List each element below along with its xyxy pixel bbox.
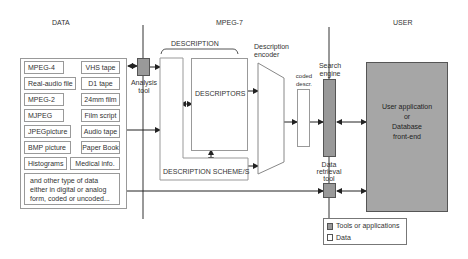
data-item-paper-book: Paper Book <box>81 141 120 154</box>
analysis-tool-label-line2: tool <box>127 87 161 95</box>
coded-descr-line2: descr. <box>291 80 317 88</box>
descriptors-box[interactable] <box>191 58 248 151</box>
description-bracket-label: DESCRIPTION <box>171 40 219 48</box>
section-user-label: USER <box>393 19 412 27</box>
search-engine-line1: Search <box>316 62 344 70</box>
data-item-mpeg2: MPEG-2 <box>24 93 64 106</box>
data-item-mjpeg: MJPEG <box>24 109 64 122</box>
legend-data-swatch <box>327 234 333 241</box>
legend-data-label: Data <box>336 234 351 242</box>
user-app-line3: Database <box>367 122 447 132</box>
data-retrieval-tool-label: Data retrieval tool <box>312 161 346 182</box>
analysis-tool-label: Analysis tool <box>127 79 161 95</box>
description-schemes-label: DESCRIPTION SCHEME/S <box>163 168 249 176</box>
other-line-2: either in digital or analog <box>30 185 119 194</box>
coded-descr-line1: coded <box>291 72 317 80</box>
data-item-jpeg-picture: JPEGpicture <box>24 125 71 138</box>
data-item-24mm-film: 24mm film <box>81 93 120 106</box>
analysis-tool-box[interactable] <box>137 58 150 76</box>
data-item-vhs-tape: VHS tape <box>81 61 120 74</box>
search-engine-box[interactable] <box>323 79 336 157</box>
data-item-film-script: Film script <box>81 109 120 122</box>
section-mpeg7-label: MPEG-7 <box>216 19 243 27</box>
user-app-line2: or <box>367 112 447 122</box>
retrieval-line2: retrieval <box>312 168 346 175</box>
data-item-mpeg4: MPEG-4 <box>24 61 64 74</box>
user-application-box[interactable]: User application or Database front-end <box>366 62 448 212</box>
user-app-label: User application or Database front-end <box>367 102 447 142</box>
other-line-3: form, coded or uncoded... <box>30 194 119 203</box>
user-app-line4: front-end <box>367 132 447 142</box>
data-item-real-audio: Real-audio file <box>24 77 76 90</box>
legend-tools-label: Tools or applications <box>336 222 399 230</box>
description-encoder-label: Description encoder <box>254 43 289 59</box>
retrieval-line3: tool <box>312 175 346 182</box>
encoder-label-line1: Description <box>254 43 289 51</box>
data-item-histograms: Histograms <box>24 157 67 170</box>
legend-tools-swatch <box>327 223 333 230</box>
data-retrieval-tool-box[interactable] <box>323 183 336 198</box>
coded-descr-label: coded descr. <box>291 72 317 88</box>
data-item-medical-info: Medical info. <box>70 157 120 170</box>
section-data-label: DATA <box>52 19 70 27</box>
data-item-d1-tape: D1 tape <box>81 77 120 90</box>
data-item-other: and other type of data either in digital… <box>24 173 120 205</box>
data-item-audio-tape: Audio tape <box>81 125 120 138</box>
data-item-bmp-picture: BMP picture <box>24 141 71 154</box>
retrieval-line1: Data <box>312 161 346 168</box>
user-app-line1: User application <box>367 102 447 112</box>
search-engine-label: Search engine <box>316 62 344 78</box>
descriptors-label: DESCRIPTORS <box>195 90 245 98</box>
other-line-1: and other type of data <box>30 176 119 185</box>
legend: Tools or applications Data <box>323 218 407 245</box>
coded-descr-box <box>297 89 310 147</box>
search-engine-line2: engine <box>316 70 344 78</box>
analysis-tool-label-line1: Analysis <box>127 79 161 87</box>
encoder-label-line2: encoder <box>254 51 289 59</box>
